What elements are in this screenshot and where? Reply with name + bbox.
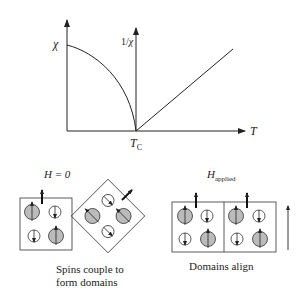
zero-field-caption-line2: form domains bbox=[56, 276, 117, 288]
domain-rotated bbox=[71, 179, 145, 253]
applied-field-panel: Happlied Domains align bbox=[172, 168, 288, 272]
chi-axis-label: χ bbox=[52, 37, 59, 51]
inverse-chi-line bbox=[136, 49, 233, 131]
domain-square bbox=[20, 190, 72, 250]
temperature-axis-label: T bbox=[250, 124, 258, 138]
zero-field-panel: H = 0 Spins couple bbox=[20, 168, 145, 288]
magnetic-domains-diagram: χ 1/χ T TC H = 0 bbox=[0, 0, 307, 292]
curie-temperature-label: TC bbox=[130, 136, 142, 152]
zero-field-caption-line1: Spins couple to bbox=[56, 263, 124, 275]
applied-field-label: Happlied bbox=[206, 168, 236, 183]
inverse-chi-axis-label: 1/χ bbox=[121, 36, 134, 47]
applied-field-caption: Domains align bbox=[189, 260, 254, 272]
zero-field-label: H = 0 bbox=[43, 168, 71, 180]
chi-graph: χ 1/χ T TC bbox=[52, 20, 258, 152]
chi-curve bbox=[67, 45, 136, 131]
